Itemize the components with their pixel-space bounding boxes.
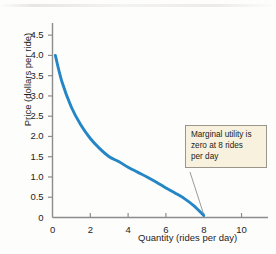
x-tick-label: 4 <box>118 224 138 235</box>
callout-line-2: zero at 8 rides <box>191 141 261 152</box>
x-axis-title: Quantity (rides per day) <box>138 232 237 243</box>
y-tick-label: 0 <box>20 212 44 223</box>
demand-curve <box>55 55 203 215</box>
x-tick-label: 2 <box>80 224 100 235</box>
y-tick-label: 1.5 <box>20 151 44 162</box>
chart-figure: 00.51.01.52.02.53.03.54.04.5 0246810 Pri… <box>0 0 276 254</box>
y-tick-label: 1.0 <box>20 171 44 182</box>
marginal-utility-callout: Marginal utility is zero at 8 rides per … <box>185 125 267 168</box>
callout-line-1: Marginal utility is <box>191 130 261 141</box>
x-tick-label: 0 <box>43 224 63 235</box>
y-axis-title: Price (dollars per ride) <box>22 10 33 150</box>
callout-line-3: per day <box>191 152 261 163</box>
y-tick-label: 0.5 <box>20 191 44 202</box>
